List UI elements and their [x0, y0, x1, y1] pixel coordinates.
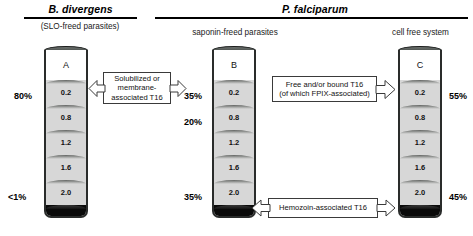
callout-solubilized: Solubilized or membrane- associated T16 — [103, 72, 171, 104]
tube-a-band-1: 0.8 — [46, 105, 86, 130]
tube-a-percent-top: 80% — [14, 91, 32, 101]
tube-b-band-clear: B — [214, 50, 254, 80]
tube-c-body: C 0.2 0.8 1.2 1.6 2.0 — [398, 50, 442, 218]
tube-b-pellet — [214, 205, 254, 216]
tube-a-band-4: 2.0 — [46, 180, 86, 205]
rule-left — [24, 17, 137, 19]
tube-c-band-4: 2.0 — [400, 180, 440, 205]
callout-free-bound-line1: Free and/or bound T16 — [286, 80, 364, 89]
species-title-left: B. divergens — [28, 3, 133, 15]
tube-a-band-3: 1.6 — [46, 155, 86, 180]
tube-c-band-1: 0.8 — [400, 105, 440, 130]
tube-b-band-3: 1.6 — [214, 155, 254, 180]
tube-a-band-clear: A — [46, 50, 86, 80]
tube-c-pellet — [400, 205, 440, 216]
tube-a-letter: A — [63, 60, 69, 70]
figure-canvas: B. divergens (SLO-freed parasites) P. fa… — [0, 0, 473, 236]
tube-a-percent-bottom: <1% — [8, 192, 26, 202]
tube-b-band-0: 0.2 — [214, 80, 254, 105]
tube-c-percent-bottom: 45% — [449, 192, 467, 202]
tube-a-body: A 0.2 0.8 1.2 1.6 2.0 — [44, 50, 88, 218]
subhead-tube-b: saponin-freed parasites — [170, 28, 300, 37]
tube-b-band-1: 0.8 — [214, 105, 254, 130]
tube-b-body: B 0.2 0.8 1.2 1.6 2.0 — [212, 50, 256, 218]
tube-a-pellet — [46, 205, 86, 216]
callout-solubilized-arrow-right-icon — [170, 79, 187, 98]
tube-b-band-2: 1.2 — [214, 130, 254, 155]
callout-hemozoin-arrow-right-icon — [377, 198, 396, 218]
tube-c-band-0: 0.2 — [400, 80, 440, 105]
tube-c-percent-top: 55% — [449, 91, 467, 101]
tube-a-band-0: 0.2 — [46, 80, 86, 105]
callout-solubilized-line1: Solubilized or — [114, 74, 160, 83]
callout-solubilized-arrow-left-icon — [88, 79, 105, 98]
tube-b-percent-mid: 20% — [184, 117, 202, 127]
tube-c-band-2: 1.2 — [400, 130, 440, 155]
subhead-tube-a: (SLO-freed parasites) — [16, 22, 144, 31]
species-title-right: P. falciparum — [240, 3, 390, 15]
tube-a-band-2: 1.2 — [46, 130, 86, 155]
callout-hemozoin-line1: Hemozoin-associated T16 — [279, 203, 367, 212]
tube-b-percent-bottom: 35% — [184, 192, 202, 202]
tube-c-letter: C — [417, 60, 424, 70]
tube-b-letter: B — [231, 60, 237, 70]
rule-right — [155, 17, 468, 19]
callout-solubilized-line2: membrane- — [118, 83, 157, 92]
callout-free-bound: Free and/or bound T16 (of which FPIX-ass… — [272, 76, 377, 102]
tube-c-band-clear: C — [400, 50, 440, 80]
callout-free-bound-line2: (of which FPIX-associated) — [279, 89, 370, 98]
callout-solubilized-line3: associated T16 — [111, 93, 162, 102]
callout-hemozoin: Hemozoin-associated T16 — [268, 198, 378, 218]
tube-c-band-3: 1.6 — [400, 155, 440, 180]
callout-hemozoin-arrow-left-icon — [251, 198, 270, 218]
callout-free-bound-arrow-right-icon — [376, 79, 396, 100]
tube-b-band-4: 2.0 — [214, 180, 254, 205]
subhead-tube-c: cell free system — [363, 28, 473, 37]
